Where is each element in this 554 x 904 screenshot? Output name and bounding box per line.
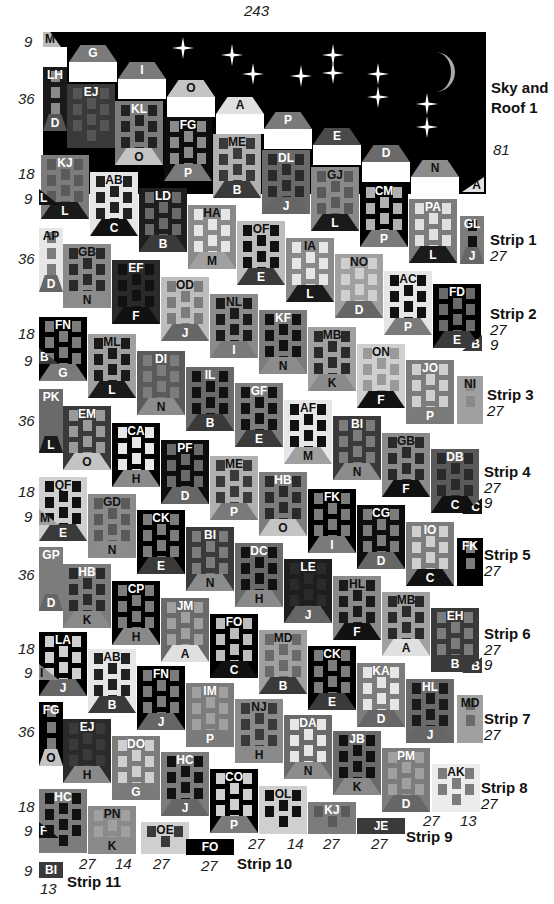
window (390, 699, 399, 710)
window (118, 756, 127, 767)
house-label: PF (161, 441, 209, 455)
window (59, 491, 68, 502)
window (292, 258, 301, 269)
window (341, 666, 350, 677)
window (304, 589, 313, 600)
window (377, 358, 386, 369)
window (306, 252, 315, 263)
house-label: MB (382, 593, 430, 607)
window (380, 197, 389, 208)
window (108, 820, 117, 831)
window (466, 715, 475, 726)
window (100, 120, 109, 131)
house-label: OL (259, 787, 307, 801)
window (167, 460, 176, 471)
window (181, 628, 190, 639)
window (404, 301, 413, 312)
window (143, 546, 152, 557)
window (230, 470, 239, 481)
window (83, 436, 92, 447)
sky-title-line1: Sky and (491, 78, 549, 98)
window (464, 644, 473, 655)
window (429, 213, 438, 224)
window (439, 542, 448, 553)
window (415, 469, 424, 480)
window (355, 284, 364, 295)
window (118, 617, 127, 628)
window (96, 584, 105, 595)
window (331, 181, 340, 192)
window (47, 409, 56, 420)
house-label: GB (63, 245, 111, 259)
house-label: EH (431, 609, 479, 623)
house-label: ME (213, 135, 261, 149)
window (233, 164, 242, 175)
window (412, 380, 421, 391)
window (230, 644, 239, 655)
strip-name: Strip 9 (406, 828, 453, 845)
window (464, 485, 473, 496)
window (206, 713, 215, 724)
window (94, 826, 103, 837)
house-label: HC (161, 753, 209, 767)
house-label: HB (259, 473, 307, 487)
window (172, 224, 181, 235)
window (72, 513, 81, 524)
window (265, 492, 274, 503)
house-label: AB (90, 173, 138, 187)
window (170, 387, 179, 398)
window (206, 557, 215, 568)
house-fk: FK (457, 538, 483, 586)
window (388, 628, 397, 639)
house-label: LA (39, 633, 87, 647)
window (265, 650, 274, 661)
window (72, 337, 81, 348)
window (426, 374, 435, 385)
window (377, 535, 386, 546)
window (270, 257, 279, 268)
window (437, 644, 446, 655)
strip-dimension: 27 (490, 322, 537, 337)
window (108, 364, 117, 375)
window (194, 634, 203, 645)
dimension-label: 27 (248, 835, 265, 852)
strip-name: Strip 11 (67, 873, 121, 890)
house-kj: KJ (308, 802, 356, 834)
window (468, 236, 477, 247)
house-label: GD (88, 495, 136, 509)
window (268, 419, 277, 430)
window (353, 430, 362, 441)
window (47, 567, 56, 578)
window (121, 370, 130, 381)
house-label: ME (210, 457, 258, 471)
dimension-label: 13 (40, 880, 57, 897)
sky-height-label: 81 (493, 141, 510, 158)
window (194, 618, 203, 629)
window (437, 469, 446, 480)
window (194, 772, 203, 783)
window (255, 397, 264, 408)
white-wall (411, 177, 459, 197)
star-icon (367, 63, 389, 85)
house-label: ON (357, 345, 405, 359)
window (339, 452, 348, 463)
crescent-moon-icon (425, 50, 455, 94)
dimension-label: 36 (18, 723, 35, 740)
dimension-label: 27 (371, 835, 388, 852)
window (366, 612, 375, 623)
star-icon (172, 37, 194, 59)
window (51, 103, 60, 114)
window (451, 479, 460, 490)
window (265, 508, 274, 519)
house-label: AF (284, 401, 332, 415)
window (59, 347, 68, 358)
window (243, 330, 252, 341)
triangle-label: I (40, 666, 43, 680)
dimension-label: 9 (24, 190, 32, 207)
house-label: CP (112, 582, 160, 596)
window (388, 469, 397, 480)
dimension-label: 27 (201, 857, 218, 874)
house-label: HB (63, 565, 111, 579)
window (145, 280, 154, 291)
window (73, 120, 82, 131)
